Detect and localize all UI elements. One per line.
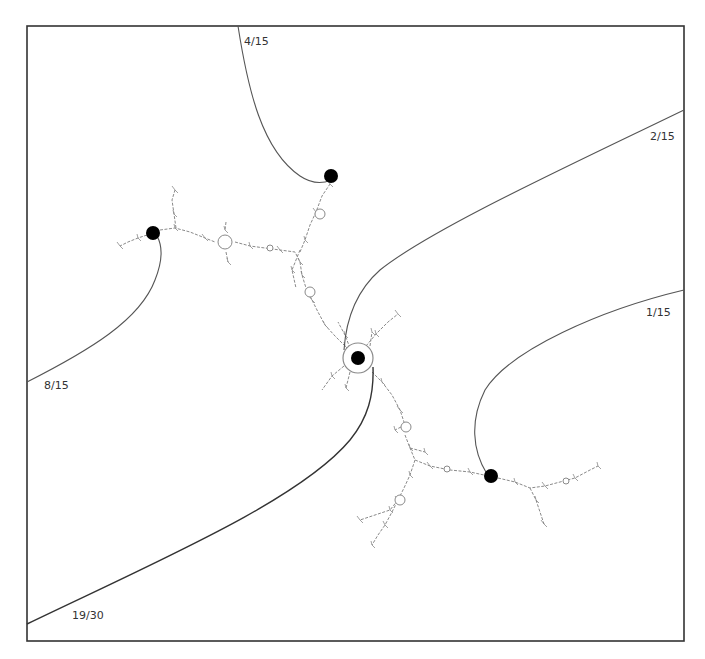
dendrite-ring — [218, 235, 232, 249]
dendrite-branch — [372, 460, 415, 545]
dendrite-ring — [563, 478, 569, 484]
dendrite-branch — [346, 372, 350, 388]
dendrite-twig — [249, 242, 253, 249]
dendrite-branch — [292, 250, 300, 288]
dendrite-branch — [530, 488, 544, 524]
dendrite-twig — [224, 226, 228, 233]
dendrite-branch — [498, 466, 598, 488]
dendrite-ring — [267, 245, 273, 251]
dendrite-twig — [514, 478, 518, 485]
dendrite-branch — [372, 372, 405, 425]
dendrite-twig — [202, 234, 208, 241]
dot-1-15 — [484, 469, 498, 483]
ray-4-15-label: 4/15 — [244, 35, 269, 48]
parameter-ray-diagram: 4/152/158/151/1519/30 — [0, 0, 705, 659]
dendrite-branch — [322, 366, 344, 390]
ray-labels: 4/152/158/151/1519/30 — [44, 35, 675, 622]
dot-4-15 — [324, 169, 338, 183]
ray-2-15 — [344, 110, 684, 350]
dendrite-twig — [397, 406, 403, 413]
dendrite-twig — [277, 246, 283, 253]
dendrite-branch — [360, 500, 398, 520]
dendrite-twig — [323, 321, 328, 328]
dendrite-branch — [225, 222, 226, 230]
dendrite-branch — [235, 242, 300, 262]
dendrite-ring — [395, 495, 405, 505]
rays — [27, 26, 684, 624]
ray-19-30-label: 19/30 — [72, 609, 104, 622]
dendrite-ring — [401, 422, 411, 432]
dendrite-branch — [300, 262, 345, 346]
dendrite-twig — [573, 474, 578, 481]
dendrite-twig — [371, 541, 375, 548]
dendrite-branch — [300, 184, 330, 252]
ray-1-15-label: 1/15 — [646, 306, 671, 319]
dendrite-twig — [424, 448, 428, 455]
dendrite-ring — [315, 209, 325, 219]
dendrite-twig — [541, 520, 547, 527]
frame-border — [27, 26, 684, 641]
ray-8-15 — [27, 236, 161, 382]
dendrite-twig — [409, 471, 413, 478]
ray-2-15-label: 2/15 — [650, 130, 675, 143]
dendrite-twig — [173, 210, 177, 217]
ray-4-15 — [238, 26, 331, 183]
dendrite-ring — [444, 466, 450, 472]
dot-8-15 — [146, 226, 160, 240]
dendrite-twig — [597, 462, 601, 469]
dendrite-twig — [345, 384, 349, 391]
ray-19-30 — [27, 367, 373, 624]
dendrite-twig — [172, 186, 178, 193]
dendrite-branch — [172, 190, 176, 228]
dot-center — [351, 351, 365, 365]
dendrite-branch — [120, 235, 147, 246]
dendrite-twig — [371, 328, 375, 335]
ray-8-15-label: 8/15 — [44, 379, 69, 392]
dendrite-ring — [305, 287, 315, 297]
dendrite-twig — [227, 258, 231, 265]
